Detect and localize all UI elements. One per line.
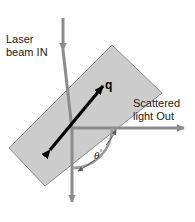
scattering-angle-label: θ° — [94, 148, 102, 161]
scattered-light-out-label: Scatteredlight Out — [133, 97, 180, 122]
degree-mark: ° — [99, 148, 102, 156]
angle-leader-lower — [78, 160, 95, 171]
scattering-vector-label: q — [105, 78, 112, 92]
laser-beam-in-line1: Laser — [6, 33, 34, 45]
laser-beam-in-label: Laserbeam IN — [6, 33, 48, 58]
light-scattering-diagram: Laserbeam IN Scatteredlight Out q θ° — [0, 0, 195, 222]
laser-beam-in-line2: beam IN — [6, 46, 48, 58]
scattered-light-out-line1: Scattered — [133, 97, 180, 109]
scattered-light-out-line2: light Out — [133, 110, 174, 122]
